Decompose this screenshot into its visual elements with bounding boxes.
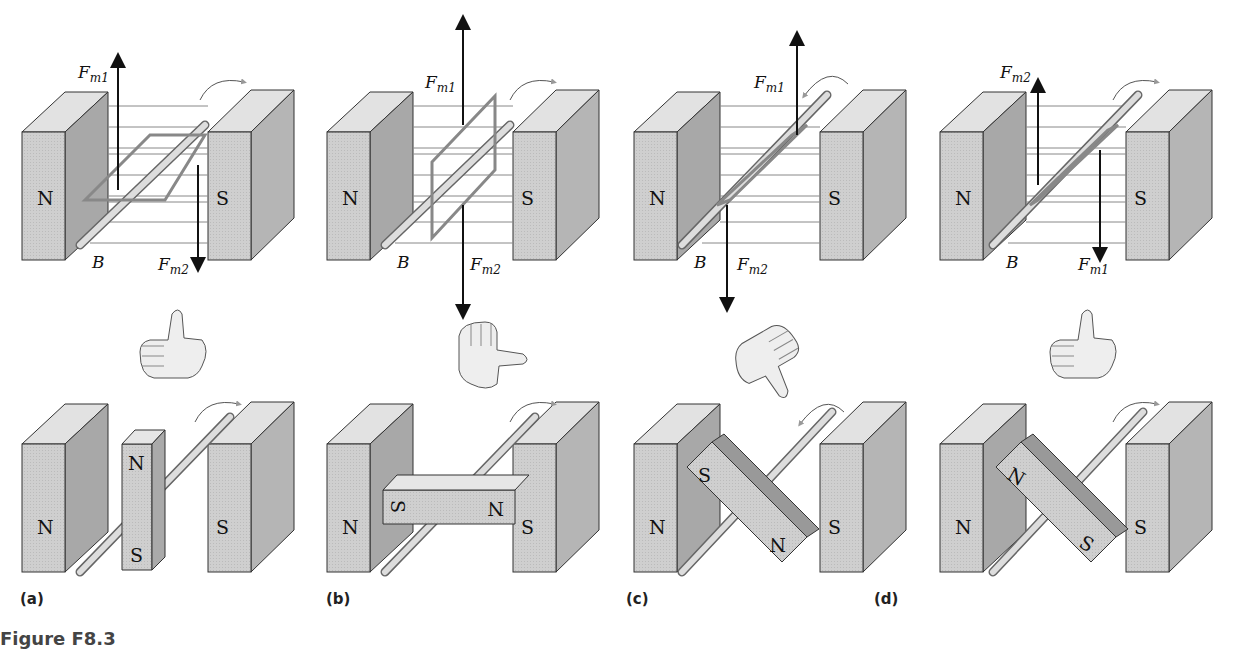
svg-text:S: S [1134, 516, 1147, 538]
svg-text:N: N [487, 498, 504, 520]
svg-text:S: S [1134, 187, 1147, 209]
panel-b-bottom: S N NS [327, 322, 599, 572]
svg-text:Fm2: Fm2 [999, 62, 1031, 85]
svg-text:B: B [1005, 252, 1019, 272]
panel-d-bottom: NS NS [940, 310, 1212, 572]
svg-text:N: N [769, 534, 786, 556]
panel-c-top: Fm1 Fm2 B NS [634, 38, 906, 305]
svg-text:N: N [649, 516, 666, 538]
svg-text:N: N [128, 452, 145, 474]
svg-text:N: N [37, 516, 54, 538]
panel-c-bottom: SN NS [634, 319, 906, 572]
svg-text:Fm1: Fm1 [1077, 254, 1109, 277]
svg-text:Fm1: Fm1 [77, 62, 109, 85]
svg-text:S: S [828, 516, 841, 538]
svg-text:N: N [342, 516, 359, 538]
panel-label-b: (b) [326, 590, 350, 608]
svg-text:Fm2: Fm2 [736, 254, 768, 277]
svg-text:S: S [216, 516, 229, 538]
svg-text:S: S [130, 544, 143, 566]
svg-text:B: B [91, 252, 105, 272]
svg-text:N: N [649, 187, 666, 209]
svg-text:N: N [342, 187, 359, 209]
panel-label-a: (a) [20, 590, 44, 608]
svg-text:N: N [955, 516, 972, 538]
svg-text:S: S [521, 516, 534, 538]
svg-text:N: N [955, 187, 972, 209]
svg-text:B: B [396, 252, 410, 272]
svg-text:S: S [698, 464, 711, 486]
svg-text:S: S [521, 187, 534, 209]
svg-text:B: B [693, 252, 707, 272]
svg-text:S: S [387, 500, 409, 513]
panel-a-bottom: NS NS [22, 310, 294, 572]
panel-label-d: (d) [874, 590, 898, 608]
panel-d-top: Fm2 Fm1 B NS [940, 62, 1212, 277]
svg-text:Fm1: Fm1 [753, 72, 785, 95]
svg-text:S: S [828, 187, 841, 209]
svg-text:S: S [216, 187, 229, 209]
figure-caption: Figure F8.3 [0, 628, 116, 649]
svg-text:Fm2: Fm2 [469, 254, 501, 277]
svg-text:N: N [37, 187, 54, 209]
panel-label-c: (c) [626, 590, 649, 608]
panel-a-top: Fm1 Fm2 B NS [22, 60, 294, 277]
svg-text:Fm1: Fm1 [424, 72, 456, 95]
panel-b-top: Fm1 Fm2 B NS [327, 22, 599, 312]
svg-text:Fm2: Fm2 [157, 254, 189, 277]
